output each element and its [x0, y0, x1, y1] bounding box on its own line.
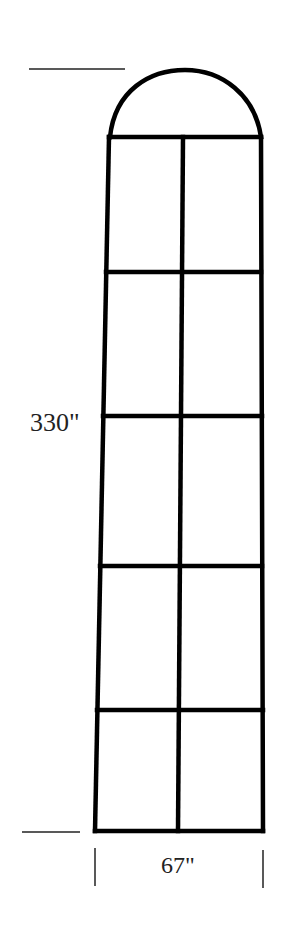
height-label: 330" [30, 408, 80, 438]
window-frame [95, 70, 263, 831]
width-label: 67" [161, 852, 195, 879]
right-jamb [261, 137, 263, 831]
mullion [178, 137, 183, 831]
arch-transom [110, 70, 261, 137]
window-diagram [0, 0, 293, 948]
left-jamb [95, 137, 109, 831]
